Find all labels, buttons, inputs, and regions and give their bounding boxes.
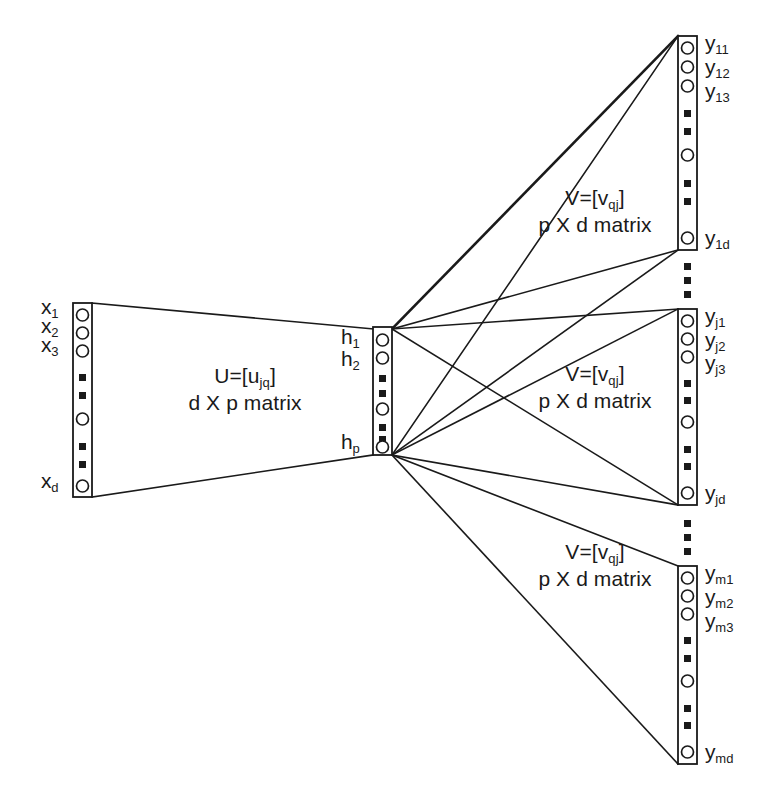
hidden-label-h2: h2 bbox=[341, 348, 360, 369]
u-matrix-formula: U=[ujq] bbox=[150, 365, 340, 386]
hidden-label-hp: hp bbox=[341, 431, 360, 452]
v-matrix-formula: V=[vqj] bbox=[500, 541, 690, 562]
output-group-m-column bbox=[678, 566, 697, 764]
output-label-yj1: yj1 bbox=[705, 305, 725, 326]
v-matrix-label-group-m: V=[vqj] p X d matrix bbox=[500, 541, 690, 589]
output-label-y13: y13 bbox=[705, 80, 730, 101]
u-matrix-dimensions: d X p matrix bbox=[150, 392, 340, 413]
output-label-yj2: yj2 bbox=[705, 329, 725, 350]
v-matrix-dimensions: p X d matrix bbox=[500, 568, 690, 589]
output-label-y11: y11 bbox=[705, 32, 729, 53]
v-fan-group-m bbox=[392, 455, 678, 764]
u-matrix-label: U=[ujq] d X p matrix bbox=[150, 365, 340, 413]
hidden-layer-column bbox=[373, 327, 392, 455]
v-matrix-formula: V=[vqj] bbox=[500, 187, 690, 208]
v-matrix-dimensions: p X d matrix bbox=[500, 390, 690, 411]
input-label-xd: xd bbox=[41, 470, 59, 491]
input-layer-column bbox=[73, 303, 92, 497]
v-matrix-dimensions: p X d matrix bbox=[500, 214, 690, 235]
ellipsis-between-group-1-and-j bbox=[684, 263, 691, 298]
output-label-y12: y12 bbox=[705, 56, 730, 77]
output-label-ym1: ym1 bbox=[705, 562, 733, 583]
output-label-ym3: ym3 bbox=[705, 610, 733, 631]
output-label-y1d: y1d bbox=[705, 227, 730, 248]
output-label-ymd: ymd bbox=[705, 741, 733, 762]
v-matrix-label-group-1: V=[vqj] p X d matrix bbox=[500, 187, 690, 235]
hidden-label-h1: h1 bbox=[341, 326, 360, 347]
output-label-yjd: yjd bbox=[705, 482, 725, 503]
input-label-x3: x3 bbox=[41, 334, 59, 355]
neural-network-diagram: x1 x2 x3 xd h1 h2 hp y11 y12 y13 y1d yj1… bbox=[0, 0, 778, 807]
output-label-yj3: yj3 bbox=[705, 352, 725, 373]
v-matrix-label-group-j: V=[vqj] p X d matrix bbox=[500, 363, 690, 411]
output-label-ym2: ym2 bbox=[705, 586, 733, 607]
v-matrix-formula: V=[vqj] bbox=[500, 363, 690, 384]
